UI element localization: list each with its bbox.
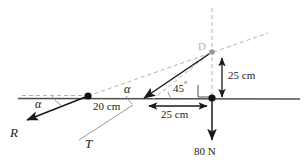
wall-node-dot <box>208 94 215 101</box>
angle-arc-mid-alpha <box>126 96 132 104</box>
right-angle-marker-icon <box>198 85 210 97</box>
dimension-label-25cm-horizontal: 25 cm <box>161 109 188 120</box>
beam-horizontal-line <box>18 99 300 100</box>
diagram-canvas <box>0 0 308 167</box>
angle-45-value: 45 <box>173 82 184 94</box>
angle-label-45deg: 45° <box>173 81 187 94</box>
hinge-node-dot <box>84 92 91 99</box>
point-d-label: D <box>198 41 206 52</box>
dimension-label-20cm: 20 cm <box>93 101 120 112</box>
physics-diagram: α R T 20 cm α 45° 25 cm D 25 cm 80 N <box>0 0 308 167</box>
angle-label-left-alpha: α <box>35 98 41 110</box>
reaction-force-label-R: R <box>10 126 18 139</box>
degree-symbol-icon: ° <box>184 80 187 89</box>
angle-arc-left-alpha <box>52 96 62 106</box>
angle-label-mid-alpha: α <box>124 83 130 95</box>
load-force-label-80N: 80 N <box>194 146 216 157</box>
tension-force-label-T: T <box>85 137 92 150</box>
dimension-label-25cm-vertical: 25 cm <box>228 70 255 81</box>
point-d-node-dot <box>209 49 215 55</box>
